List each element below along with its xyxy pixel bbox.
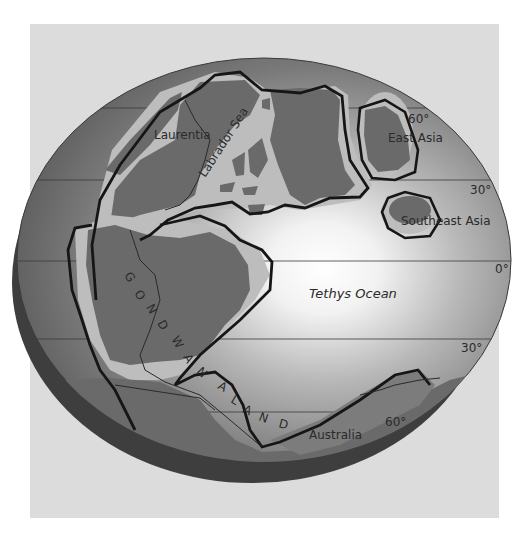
latitude-label-30s: 30° — [461, 341, 482, 355]
label-australia: Australia — [309, 428, 362, 442]
latitude-label-30n: 30° — [470, 183, 491, 197]
label-east-asia: East Asia — [388, 131, 443, 145]
label-laurentia: Laurentia — [154, 128, 211, 142]
latitude-label-60n: 60° — [408, 112, 429, 126]
paleogeographic-globe-map: Laurentia Labrador Sea East Asia Southea… — [0, 0, 526, 537]
latitude-label-60s: 60° — [385, 415, 406, 429]
label-southeast-asia: Southeast Asia — [401, 214, 491, 228]
label-tethys-ocean: Tethys Ocean — [309, 286, 397, 301]
latitude-label-0: 0° — [495, 262, 509, 276]
